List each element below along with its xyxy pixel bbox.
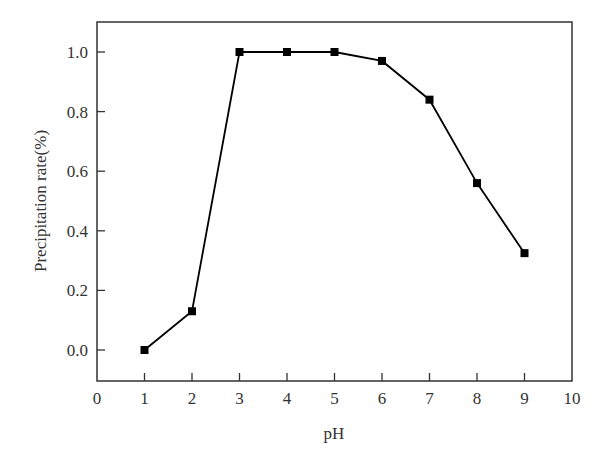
y-axis-ticks: 0.00.20.40.60.81.0 [67,43,105,360]
x-tick-label: 2 [188,389,197,408]
data-point-marker [188,307,196,315]
data-point-marker [473,179,481,187]
x-tick-label: 6 [378,389,387,408]
data-point-marker [236,48,244,56]
x-tick-label: 7 [425,389,434,408]
series-line [145,52,525,350]
y-tick-label: 0.2 [67,281,88,300]
y-tick-label: 0.6 [67,162,88,181]
data-point-marker [426,96,434,104]
x-tick-label: 10 [564,389,581,408]
data-point-marker [283,48,291,56]
x-tick-label: 0 [93,389,102,408]
x-tick-label: 1 [140,389,149,408]
x-axis-ticks: 012345678910 [93,373,581,408]
y-axis-label: Precipitation rate(%) [31,130,50,272]
data-point-marker [141,346,149,354]
x-tick-label: 8 [473,389,482,408]
x-tick-label: 5 [330,389,339,408]
x-tick-label: 4 [283,389,292,408]
y-tick-label: 0.8 [67,103,88,122]
y-tick-label: 0.4 [67,222,89,241]
y-tick-label: 0.0 [67,341,88,360]
line-chart: 012345678910 0.00.20.40.60.81.0 pH Preci… [0,0,608,455]
x-axis-label: pH [324,424,345,443]
data-point-marker [331,48,339,56]
x-tick-label: 3 [235,389,244,408]
data-series [141,48,529,354]
data-point-marker [378,57,386,65]
plot-frame [97,22,572,381]
x-tick-label: 9 [520,389,529,408]
data-point-marker [521,249,529,257]
y-tick-label: 1.0 [67,43,88,62]
